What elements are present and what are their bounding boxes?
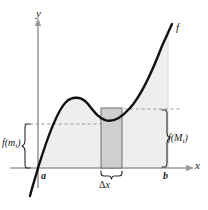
brace-delta-x [101, 171, 122, 179]
fMi-label-close: ) [184, 132, 187, 143]
interval-left-endpoint-label-a: a [41, 171, 46, 181]
subinterval-width-label-delta-x: Δx [99, 180, 110, 190]
delta-x-variable: x [105, 179, 109, 190]
fmi-label-main: f(m [2, 137, 15, 148]
y-axis-arrowhead [35, 18, 41, 26]
x-axis-arrowhead [186, 165, 194, 171]
interval-right-endpoint-label-b: b [163, 171, 168, 181]
brace-left-fmi [22, 124, 30, 168]
y-axis-label: y [36, 8, 41, 19]
fmi-label-close: ) [17, 137, 20, 148]
figure-canvas: y x f a b f(mi) f(Mi) Δx [0, 0, 208, 210]
minimum-value-label-fmi: f(mi) [2, 138, 21, 150]
x-axis-label: x [195, 160, 200, 171]
maximum-value-label-fMi: f(Mi) [168, 133, 188, 145]
fMi-label-main: f(M [168, 132, 182, 143]
curve-label-f: f [176, 22, 179, 33]
